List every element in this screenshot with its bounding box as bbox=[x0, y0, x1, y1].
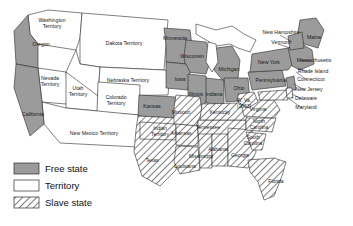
region-maryland[interactable] bbox=[258, 90, 288, 100]
label-california: California bbox=[22, 111, 44, 117]
callout-label-rhode-island: Rhode Island bbox=[298, 68, 329, 74]
label-west-virginia: W. Va.(1863) bbox=[237, 98, 252, 109]
label-texas: Texas bbox=[145, 157, 159, 163]
label-michigan: Michigan bbox=[219, 66, 240, 72]
label-louisiana: Louisiana bbox=[174, 163, 196, 169]
label-illinois: Illinois bbox=[189, 91, 204, 97]
label-maine: Maine bbox=[307, 34, 321, 40]
region-louisiana[interactable] bbox=[174, 146, 200, 174]
label-pennsylvania: Pennsylvania bbox=[256, 77, 287, 83]
label-dakota-territory: Dakota Territory bbox=[106, 40, 143, 46]
label-kansas: Kansas bbox=[143, 103, 161, 109]
label-minnesota: Minnesota bbox=[163, 35, 187, 41]
label-alabama: Alabama bbox=[208, 146, 228, 152]
label-kentucky: Kentucky bbox=[210, 109, 231, 115]
legend-swatch-territory bbox=[14, 180, 39, 191]
label-iowa: Iowa bbox=[175, 76, 186, 82]
label-ohio: Ohio bbox=[234, 85, 245, 91]
us-map-svg: WashingtonTerritoryDakota TerritoryNebra… bbox=[0, 0, 353, 226]
label-new-mexico-territory: New Mexico Territory bbox=[70, 130, 119, 136]
label-colorado-territory: ColoradoTerritory bbox=[105, 95, 126, 106]
map-legend: Free state Territory Slave state bbox=[14, 163, 92, 208]
callout-label-massachusetts: Massachusetts bbox=[297, 57, 332, 63]
label-virginia: Virginia bbox=[250, 106, 267, 112]
map-container: WashingtonTerritoryDakota TerritoryNebra… bbox=[0, 0, 353, 226]
label-tennessee: Tennessee bbox=[196, 124, 220, 130]
label-georgia: Georgia bbox=[231, 152, 249, 158]
callout-label-new-jersey: New Jersey bbox=[295, 86, 323, 92]
callout-label-delaware: Delaware bbox=[295, 95, 317, 101]
label-missouri: Missouri bbox=[172, 109, 191, 115]
label-mississippi: Mississippi bbox=[189, 153, 213, 159]
label-oregon: Oregon bbox=[32, 41, 49, 47]
legend-label-territory: Territory bbox=[45, 180, 80, 191]
callout-label-new-hampshire: New Hampshire bbox=[263, 29, 300, 35]
legend-swatch-slave-state bbox=[14, 197, 39, 208]
region-michigan[interactable] bbox=[214, 46, 240, 82]
label-indiana: Indiana bbox=[205, 91, 222, 97]
label-indian-territory: IndianTerritory bbox=[151, 126, 170, 137]
label-florida: Florida bbox=[268, 178, 284, 184]
label-new-york: New York bbox=[258, 59, 280, 65]
label-wisconsin: Wisconsin bbox=[180, 53, 204, 59]
label-arkansas: Arkansas bbox=[171, 130, 192, 136]
label-nevada-territory: NevadaTerritory bbox=[41, 76, 60, 87]
legend-label-free-state: Free state bbox=[45, 163, 88, 174]
region-delaware[interactable] bbox=[286, 88, 293, 98]
callout-label-connecticut: Connecticut bbox=[297, 76, 325, 82]
legend-label-slave-state: Slave state bbox=[45, 197, 92, 208]
label-nebraska-territory: Nebraska Territory bbox=[107, 77, 150, 83]
callout-label-vermont: Vermont bbox=[271, 39, 291, 45]
legend-swatch-free-state bbox=[14, 163, 39, 174]
callout-label-maryland: Maryland bbox=[295, 104, 316, 110]
